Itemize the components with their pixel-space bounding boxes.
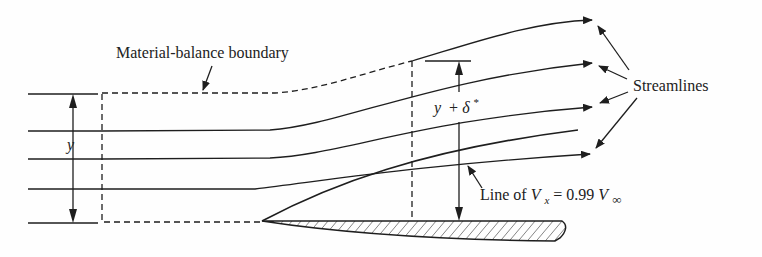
streamline-2: [102, 63, 592, 131]
boundary-label-leader: [203, 66, 212, 90]
edge-line-label-leader: [468, 166, 482, 188]
diagram-canvas: Material-balance boundary Streamlines y …: [0, 0, 762, 257]
material-balance-boundary-label: Material-balance boundary: [116, 44, 289, 62]
boundary-layer-edge-line: [262, 130, 578, 221]
y-plus-delta-star-label: y + δ *: [432, 96, 479, 117]
arrowhead-down-icon: [455, 207, 463, 221]
streamline-top: [412, 20, 592, 61]
streamlines-leader-1: [598, 26, 629, 70]
streamlines-leader-2: [599, 66, 627, 79]
arrowhead-up-icon: [455, 61, 463, 75]
streamlines-leader-4: [596, 98, 637, 148]
arrowhead-down-icon: [69, 209, 77, 223]
flat-plate: [262, 221, 566, 241]
velocity-line-label: Line of V x = 0.99 V ∞: [480, 186, 621, 207]
streamlines-leader-3: [600, 92, 628, 103]
arrowhead-up-icon: [69, 94, 77, 108]
streamlines-label: Streamlines: [633, 77, 709, 94]
y-label: y: [65, 136, 75, 154]
boundary-layer-diagram: Material-balance boundary Streamlines y …: [0, 0, 762, 257]
material-balance-boundary: [102, 61, 412, 222]
